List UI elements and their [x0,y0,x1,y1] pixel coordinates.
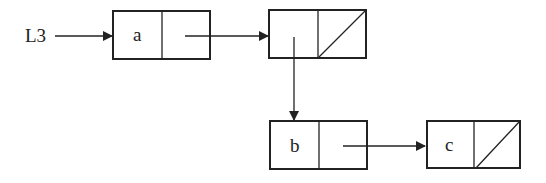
node-3: b [270,121,367,169]
node-4-value: c [445,134,453,155]
node-1: a [113,11,210,59]
node-2 [269,10,366,58]
node-1-value: a [133,24,142,45]
pointer-label: L3 [25,25,46,46]
null-slash-icon [476,121,520,168]
null-slash-icon [318,10,366,58]
node-3-value: b [290,135,300,156]
linked-list-diagram: L3 a b c [0,0,546,183]
node-4: c [427,121,520,168]
